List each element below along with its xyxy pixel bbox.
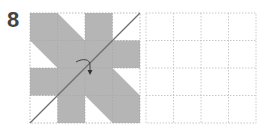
left-figure	[30, 13, 140, 123]
right-answer-grid	[146, 13, 256, 123]
folding-diagram	[0, 0, 272, 137]
